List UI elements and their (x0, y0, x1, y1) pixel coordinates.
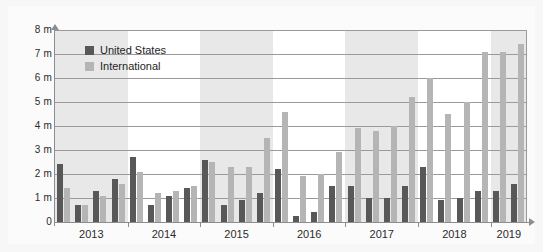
bar-pair[interactable] (311, 30, 326, 222)
bar-pair[interactable] (402, 30, 417, 222)
y-tick-label: 5 m (12, 96, 52, 107)
bar-international[interactable] (282, 112, 288, 222)
bar-united-states[interactable] (384, 198, 390, 222)
bar-united-states[interactable] (130, 157, 136, 222)
bar-pair[interactable] (384, 30, 399, 222)
bar-united-states[interactable] (166, 196, 172, 222)
bar-united-states[interactable] (112, 179, 118, 222)
bar-pair[interactable] (511, 30, 526, 222)
bar-international[interactable] (318, 174, 324, 222)
bar-pair[interactable] (202, 30, 217, 222)
y-tick-label: 8 m (12, 24, 52, 35)
bar-united-states[interactable] (438, 200, 444, 222)
bar-pair[interactable] (420, 30, 435, 222)
bar-pair[interactable] (457, 30, 472, 222)
bar-international[interactable] (336, 152, 342, 222)
bar-united-states[interactable] (366, 198, 372, 222)
x-tick-label-2014: 2014 (134, 228, 194, 240)
chart-root: 8 m7 m6 m5 m4 m3 m2 m1 m0 20132014201520… (0, 0, 543, 252)
bar-international[interactable] (264, 138, 270, 222)
y-axis-labels: 8 m7 m6 m5 m4 m3 m2 m1 m0 (8, 30, 52, 222)
y-tick-label: 6 m (12, 72, 52, 83)
bar-international[interactable] (445, 114, 451, 222)
bar-pair[interactable] (493, 30, 508, 222)
bar-international[interactable] (173, 191, 179, 222)
bar-international[interactable] (464, 102, 470, 222)
bar-united-states[interactable] (493, 191, 499, 222)
bar-international[interactable] (482, 52, 488, 222)
bar-international[interactable] (427, 78, 433, 222)
bar-pair[interactable] (348, 30, 363, 222)
bar-pair[interactable] (239, 30, 254, 222)
y-tick-label: 0 (12, 216, 52, 227)
bar-united-states[interactable] (402, 186, 408, 222)
bar-united-states[interactable] (420, 167, 426, 222)
x-axis-tick (200, 222, 201, 227)
chart-card: 8 m7 m6 m5 m4 m3 m2 m1 m0 20132014201520… (8, 6, 535, 244)
x-axis-labels: 2013201420152016201720182019 (55, 228, 533, 244)
bar-international[interactable] (119, 184, 125, 222)
bar-pair[interactable] (221, 30, 236, 222)
x-tick-label-2019: 2019 (479, 228, 539, 240)
bar-united-states[interactable] (75, 205, 81, 222)
y-tick-label: 4 m (12, 120, 52, 131)
bar-united-states[interactable] (275, 169, 281, 222)
bar-united-states[interactable] (457, 198, 463, 222)
bar-united-states[interactable] (257, 193, 263, 222)
bar-pair[interactable] (329, 30, 344, 222)
legend-item-international[interactable]: International (85, 59, 166, 73)
y-tick-label: 1 m (12, 192, 52, 203)
bar-pair[interactable] (57, 30, 72, 222)
bar-international[interactable] (100, 196, 106, 222)
bar-united-states[interactable] (311, 212, 317, 222)
x-axis-tick (345, 222, 346, 227)
legend-item-united-states[interactable]: United States (85, 43, 166, 57)
bar-pair[interactable] (275, 30, 290, 222)
x-axis-tick (128, 222, 129, 227)
x-tick-label-2013: 2013 (61, 228, 121, 240)
bar-international[interactable] (518, 44, 524, 222)
y-tick-label: 3 m (12, 144, 52, 155)
bar-international[interactable] (355, 128, 361, 222)
bar-pair[interactable] (438, 30, 453, 222)
bar-pair[interactable] (475, 30, 490, 222)
bar-pair[interactable] (366, 30, 381, 222)
bar-united-states[interactable] (475, 191, 481, 222)
bar-international[interactable] (82, 205, 88, 222)
bar-pair[interactable] (293, 30, 308, 222)
bar-international[interactable] (191, 186, 197, 222)
bar-international[interactable] (137, 172, 143, 222)
bar-international[interactable] (373, 131, 379, 222)
chart-legend: United States International (85, 43, 166, 75)
x-tick-label-2016: 2016 (279, 228, 339, 240)
bar-united-states[interactable] (348, 186, 354, 222)
x-axis-tick (418, 222, 419, 227)
bar-international[interactable] (500, 52, 506, 222)
bar-international[interactable] (155, 193, 161, 222)
bar-international[interactable] (300, 176, 306, 222)
x-axis-tick (273, 222, 274, 227)
x-tick-label-2017: 2017 (352, 228, 412, 240)
bar-united-states[interactable] (511, 184, 517, 222)
bar-pair[interactable] (257, 30, 272, 222)
bar-international[interactable] (246, 167, 252, 222)
bar-international[interactable] (391, 126, 397, 222)
bar-united-states[interactable] (57, 164, 63, 222)
bar-international[interactable] (228, 167, 234, 222)
bar-united-states[interactable] (221, 205, 227, 222)
x-tick-label-2018: 2018 (424, 228, 484, 240)
bar-united-states[interactable] (202, 160, 208, 222)
legend-label: United States (100, 44, 166, 56)
legend-label: International (100, 60, 161, 72)
bar-pair[interactable] (166, 30, 181, 222)
bar-pair[interactable] (184, 30, 199, 222)
bar-united-states[interactable] (184, 188, 190, 222)
bar-united-states[interactable] (93, 191, 99, 222)
bar-united-states[interactable] (329, 186, 335, 222)
bar-international[interactable] (209, 162, 215, 222)
bar-international[interactable] (64, 188, 70, 222)
bar-international[interactable] (409, 97, 415, 222)
bar-united-states[interactable] (239, 200, 245, 222)
bar-united-states[interactable] (148, 205, 154, 222)
x-axis-line (54, 222, 532, 223)
